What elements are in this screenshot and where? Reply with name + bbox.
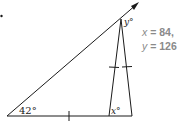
answer-line-2: y = 126 (141, 40, 177, 52)
answer-y-value: = 126 (147, 40, 177, 52)
right-side-line (121, 19, 132, 116)
answer-x-value: = 84, (147, 26, 174, 38)
arrowhead-icon (131, 2, 139, 10)
problem-bullet (0, 15, 2, 17)
answer-line-1: x = 84, (141, 26, 174, 38)
geometry-diagram: 42° x° y° x = 84, y = 126 (0, 0, 189, 129)
angle-label-x: x° (111, 106, 121, 116)
angle-label-42: 42° (19, 105, 37, 116)
angle-label-y: y° (123, 17, 134, 27)
ray-line (7, 4, 137, 116)
right-side-tick-mark (122, 67, 132, 68)
left-side-tick-mark (109, 67, 119, 68)
